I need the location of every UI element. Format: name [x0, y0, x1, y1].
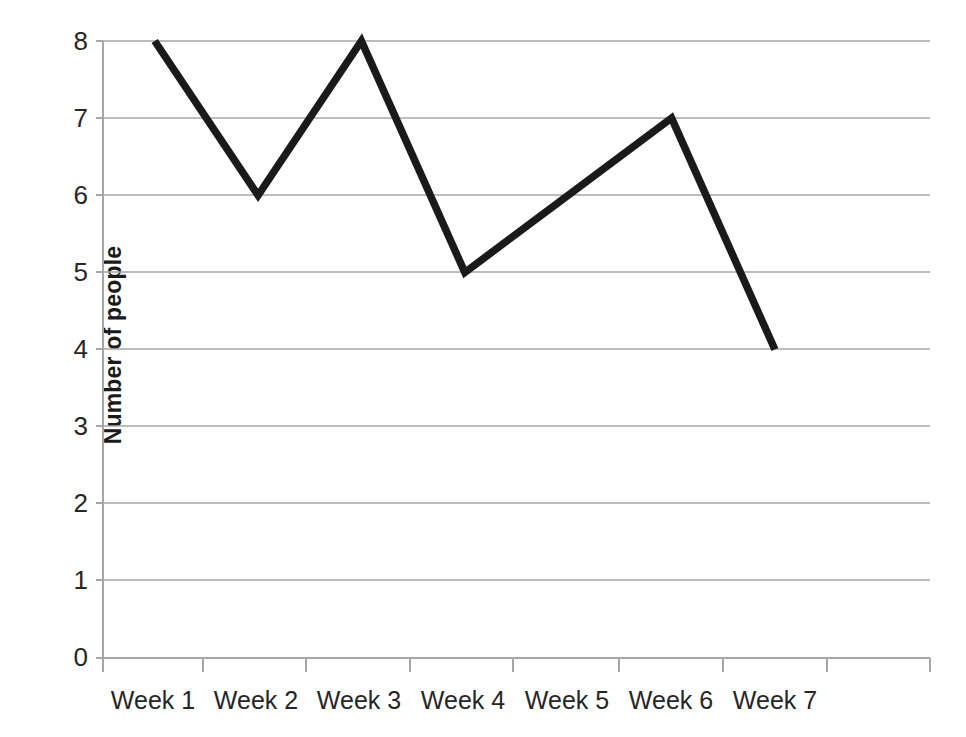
x-tick-label-week-5: Week 5 — [525, 686, 609, 715]
plot-area — [0, 0, 966, 737]
x-tick-label-week-6: Week 6 — [629, 686, 713, 715]
y-axis-ticks — [96, 41, 103, 658]
x-tick-label-week-1: Week 1 — [111, 686, 195, 715]
gridlines — [103, 41, 930, 580]
line-chart: Number of people 8 7 6 5 4 3 2 1 0 — [0, 0, 966, 737]
x-axis-ticks — [103, 658, 930, 672]
x-tick-label-week-4: Week 4 — [421, 686, 505, 715]
x-tick-label-week-2: Week 2 — [214, 686, 298, 715]
x-tick-label-week-7: Week 7 — [733, 686, 817, 715]
x-tick-label-week-3: Week 3 — [317, 686, 401, 715]
